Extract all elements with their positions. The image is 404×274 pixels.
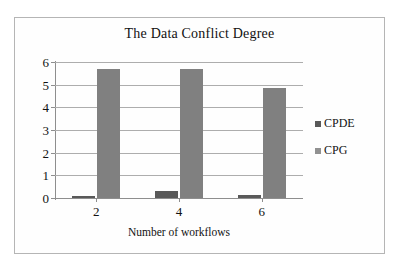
y-axis-tick-mark xyxy=(51,85,55,86)
plot-area xyxy=(55,62,303,198)
bar-group xyxy=(72,62,120,198)
y-axis-tick-label: 1 xyxy=(23,169,49,182)
x-axis-tick-mark xyxy=(262,198,263,202)
y-axis-tick-label: 5 xyxy=(23,79,49,92)
x-axis-tick-mark xyxy=(179,198,180,202)
y-axis-tick-labels: 6543210 xyxy=(15,62,49,198)
legend-item-cpde: CPDE xyxy=(315,116,385,131)
x-axis-tick-label: 4 xyxy=(159,204,199,220)
y-axis-tick-label: 6 xyxy=(23,56,49,69)
legend-label: CPDE xyxy=(324,116,355,131)
y-axis-tick-mark xyxy=(51,198,55,199)
y-axis-tick-mark xyxy=(51,130,55,131)
bar-cpde-6 xyxy=(238,195,261,198)
x-axis-tick-mark xyxy=(96,198,97,202)
bar-cpde-4 xyxy=(155,191,178,198)
bar-cpg-2 xyxy=(97,69,120,198)
legend-swatch-cpde xyxy=(315,121,321,127)
y-axis-tick-mark xyxy=(51,62,55,63)
chart-frame: The Data Conflict Degree 6543210 246 Num… xyxy=(14,17,385,254)
bar-group xyxy=(238,62,286,198)
x-axis-title: Number of workflows xyxy=(55,226,303,238)
legend-item-cpg: CPG xyxy=(315,143,385,158)
bar-cpg-6 xyxy=(263,88,286,198)
legend-swatch-cpg xyxy=(315,148,321,154)
bar-cpg-4 xyxy=(180,69,203,198)
y-axis-tick-label: 2 xyxy=(23,147,49,160)
x-axis-tick-label: 6 xyxy=(242,204,282,220)
bar-group xyxy=(155,62,203,198)
y-axis-tick-label: 4 xyxy=(23,101,49,114)
x-axis-tick-label: 2 xyxy=(76,204,116,220)
y-axis-tick-mark xyxy=(51,153,55,154)
chart-title: The Data Conflict Degree xyxy=(15,26,384,42)
y-axis-tick-label: 0 xyxy=(23,192,49,205)
bar-cpde-2 xyxy=(72,196,95,198)
chart-legend: CPDECPG xyxy=(315,116,385,170)
y-axis-tick-label: 3 xyxy=(23,124,49,137)
y-axis-tick-mark xyxy=(51,107,55,108)
y-axis-tick-mark xyxy=(51,175,55,176)
legend-label: CPG xyxy=(324,143,347,158)
